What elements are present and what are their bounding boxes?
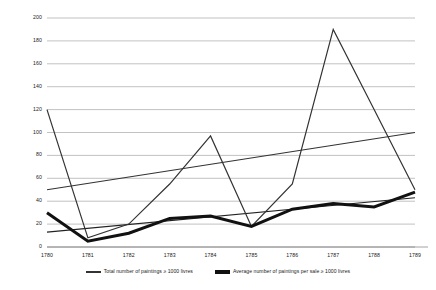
- y-axis-tick-label: 200: [18, 15, 42, 20]
- x-axis-tick-label: 1789: [398, 253, 432, 258]
- series-line-1: [47, 192, 415, 241]
- x-axis-tick-label: 1782: [112, 253, 146, 258]
- y-axis-tick-label: 100: [18, 130, 42, 135]
- x-axis-tick-label: 1780: [30, 253, 64, 258]
- y-axis-tick-label: 0: [18, 244, 42, 249]
- y-axis-tick-label: 40: [18, 198, 42, 203]
- legend-label: Average number of paintings per sale ≥ 1…: [233, 269, 350, 274]
- legend-item[interactable]: Average number of paintings per sale ≥ 1…: [215, 269, 350, 274]
- x-axis-tick-label: 1784: [194, 253, 228, 258]
- y-axis-tick-label: 140: [18, 84, 42, 89]
- y-axis-tick-label: 20: [18, 221, 42, 226]
- x-axis-tick-label: 1787: [316, 253, 350, 258]
- chart-legend: Total number of paintings ≥ 1000 livresA…: [0, 264, 436, 280]
- y-axis-tick-label: 160: [18, 61, 42, 66]
- y-axis-tick-label: 80: [18, 152, 42, 157]
- chart-svg: [0, 0, 436, 290]
- legend-item[interactable]: Total number of paintings ≥ 1000 livres: [86, 269, 193, 274]
- legend-label: Total number of paintings ≥ 1000 livres: [104, 269, 193, 274]
- legend-swatch-icon: [215, 270, 230, 273]
- plot-area: [0, 0, 436, 290]
- y-axis-tick-label: 120: [18, 107, 42, 112]
- trendline-average: [47, 198, 415, 232]
- x-axis-tick-label: 1783: [153, 253, 187, 258]
- y-axis-tick-label: 60: [18, 175, 42, 180]
- x-axis-tick-label: 1785: [234, 253, 268, 258]
- gridline-group: [47, 18, 415, 247]
- x-axis-tick-label: 1788: [357, 253, 391, 258]
- x-axis-tick-label: 1781: [71, 253, 105, 258]
- y-axis-tick-label: 180: [18, 38, 42, 43]
- series-group: [47, 29, 415, 241]
- x-axis-tick-label: 1786: [275, 253, 309, 258]
- chart-container: 020406080100120140160180200 178017811782…: [0, 0, 436, 290]
- legend-swatch-icon: [86, 271, 101, 273]
